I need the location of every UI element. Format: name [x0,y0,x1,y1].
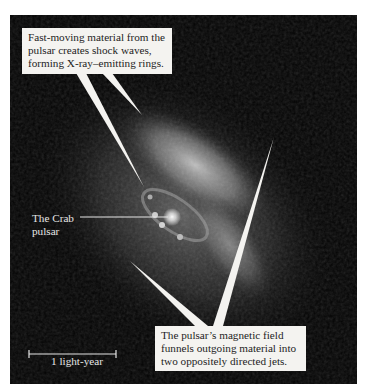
pulsar-label-line-1: The Crab [32,212,74,225]
top-callout-line-2: pulsar creates shock waves, [28,44,167,57]
bottom-callout-line-2: funnels outgoing material into [161,342,301,355]
pointer-bottom-right [213,137,274,326]
top-callout-box: Fast-moving material from the pulsar cre… [22,28,172,74]
top-callout-line-3: forming X-ray–emitting rings. [28,57,167,70]
bottom-callout-line-1: The pulsar’s magnetic field [161,329,301,342]
pulsar-label-line-2: pulsar [32,225,74,238]
bottom-callout-line-3: two oppositely directed jets. [161,355,301,368]
top-callout-line-1: Fast-moving material from the [28,31,167,44]
pulsar-label: The Crab pulsar [32,212,74,238]
pointer-top-long [76,73,144,187]
scale-bar-label: 1 light-year [37,355,117,368]
bottom-callout-box: The pulsar’s magnetic field funnels outg… [155,326,306,371]
pointer-bottom-left [130,261,208,326]
pointer-top-short [102,73,142,115]
crab-nebula-photo: Fast-moving material from the pulsar cre… [10,15,357,384]
